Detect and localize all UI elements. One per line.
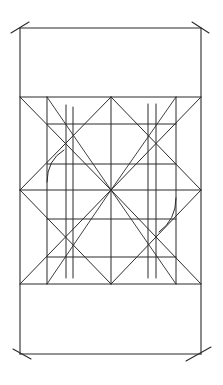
right-arc — [159, 198, 176, 232]
construction-drawing — [0, 0, 223, 385]
geometric-diagram — [0, 0, 223, 385]
left-arc — [47, 150, 64, 182]
